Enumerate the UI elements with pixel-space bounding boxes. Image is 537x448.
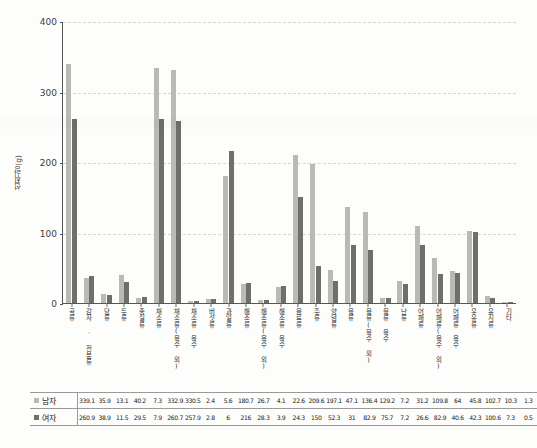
x-tick-mark <box>298 303 299 307</box>
table-cell: 4.1 <box>272 393 290 408</box>
table-row-male: 남자 339.135.913.140.27.3332.9330.52.45.61… <box>30 392 537 409</box>
x-axis-label: 종실류 <box>132 308 149 390</box>
bar-male <box>450 271 455 303</box>
bar-female <box>246 283 251 303</box>
bar-female <box>159 119 164 303</box>
y-tick-mark-0 <box>60 304 63 305</box>
bar-male <box>101 294 106 303</box>
bar-male <box>276 287 281 303</box>
x-axis-label: 육류(육수 외) <box>359 308 376 390</box>
bar-group <box>324 22 341 303</box>
table-cell: 52.3 <box>325 409 343 425</box>
table-cell: 7.3 <box>149 393 167 408</box>
x-tick-mark <box>437 303 438 307</box>
table-cell: 330.5 <box>184 393 202 408</box>
table-cell: 31 <box>343 409 361 425</box>
bar-male <box>223 176 228 303</box>
table-cell: 22.6 <box>290 393 308 408</box>
table-cell: 0.5 <box>519 409 537 425</box>
bar-female <box>176 121 181 303</box>
bar-group <box>377 22 394 303</box>
bar-group <box>168 22 185 303</box>
table-cell: 129.2 <box>378 393 396 408</box>
bar-female <box>333 281 338 303</box>
bar-female <box>264 300 269 303</box>
bar-group <box>272 22 289 303</box>
chart-page: 섭취량(g) 0100200300400 곡류감자 · 전분류당류두류종실류채소… <box>0 0 537 448</box>
table-cell: 216 <box>237 409 255 425</box>
table-cell: 197.1 <box>325 393 343 408</box>
x-axis-label: 육류 육수 <box>376 308 393 390</box>
table-cell: 40.6 <box>449 409 467 425</box>
bar-group <box>202 22 219 303</box>
table-row-female: 여자 260.938.911.529.57.9260.7257.92.86216… <box>30 409 537 426</box>
bar-female <box>368 250 373 303</box>
table-cell: 7.2 <box>396 409 414 425</box>
table-cell: 3.9 <box>272 409 290 425</box>
data-table: 남자 339.135.913.140.27.3332.9330.52.45.61… <box>30 392 537 442</box>
bar-group <box>133 22 150 303</box>
x-tick-mark <box>176 303 177 307</box>
bar-male <box>66 64 71 303</box>
x-axis-label: 해조류(육수 외) <box>254 308 271 390</box>
table-cell: 38.9 <box>96 409 114 425</box>
bar-group <box>255 22 272 303</box>
x-tick-mark <box>350 303 351 307</box>
bar-group <box>342 22 359 303</box>
bar-female <box>508 302 513 303</box>
y-axis-label: 섭취량(g) <box>13 155 27 190</box>
bar-groups <box>63 22 516 303</box>
legend-swatch-female-icon <box>34 415 39 420</box>
bar-male <box>154 68 159 303</box>
bar-group <box>394 22 411 303</box>
x-axis-label: 과일류 <box>219 308 236 390</box>
bar-group <box>481 22 498 303</box>
bar-group <box>63 22 80 303</box>
x-tick-mark <box>454 303 455 307</box>
bar-group <box>446 22 463 303</box>
x-tick-mark <box>333 303 334 307</box>
legend-item-male: 남자 <box>30 393 78 408</box>
bar-group <box>80 22 97 303</box>
table-cell: 6 <box>219 409 237 425</box>
bar-male <box>467 231 472 303</box>
bar-female <box>211 299 216 303</box>
table-cell: 209.6 <box>308 393 326 408</box>
x-axis-label: 육류 <box>342 308 359 390</box>
bar-female <box>89 276 94 303</box>
table-cell: 257.9 <box>184 409 202 425</box>
x-tick-mark <box>245 303 246 307</box>
bar-chart: 섭취량(g) 0100200300400 곡류감자 · 전분류당류두류종실류채소… <box>0 0 537 392</box>
bar-male <box>397 281 402 303</box>
bar-male <box>84 278 89 303</box>
bar-female <box>229 151 234 303</box>
bar-group <box>115 22 132 303</box>
x-axis-label: 음료류 <box>289 308 306 390</box>
bar-female <box>298 197 303 303</box>
table-cell: 47.1 <box>343 393 361 408</box>
y-tick-300: 300 <box>40 88 57 98</box>
x-tick-mark <box>507 303 508 307</box>
bar-male <box>241 284 246 303</box>
x-tick-mark <box>420 303 421 307</box>
table-cell: 11.5 <box>113 409 131 425</box>
x-tick-mark <box>263 303 264 307</box>
x-tick-mark <box>489 303 490 307</box>
table-cell: 5.6 <box>219 393 237 408</box>
x-tick-mark <box>123 303 124 307</box>
legend-label-male: 남자 <box>42 395 56 406</box>
bar-group <box>359 22 376 303</box>
x-axis-label: 난류 <box>394 308 411 390</box>
bar-male <box>119 275 124 303</box>
x-axis-label: 두류 <box>114 308 131 390</box>
female-values: 260.938.911.529.57.9260.7257.92.8621628.… <box>78 409 537 425</box>
x-tick-mark <box>193 303 194 307</box>
bar-group <box>289 22 306 303</box>
table-cell: 7.9 <box>149 409 167 425</box>
table-cell: 75.7 <box>378 409 396 425</box>
table-cell: 42.3 <box>466 409 484 425</box>
y-tick-0: 0 <box>51 299 57 309</box>
bar-female <box>438 274 443 303</box>
bar-female <box>281 286 286 303</box>
y-tick-100: 100 <box>40 229 57 239</box>
